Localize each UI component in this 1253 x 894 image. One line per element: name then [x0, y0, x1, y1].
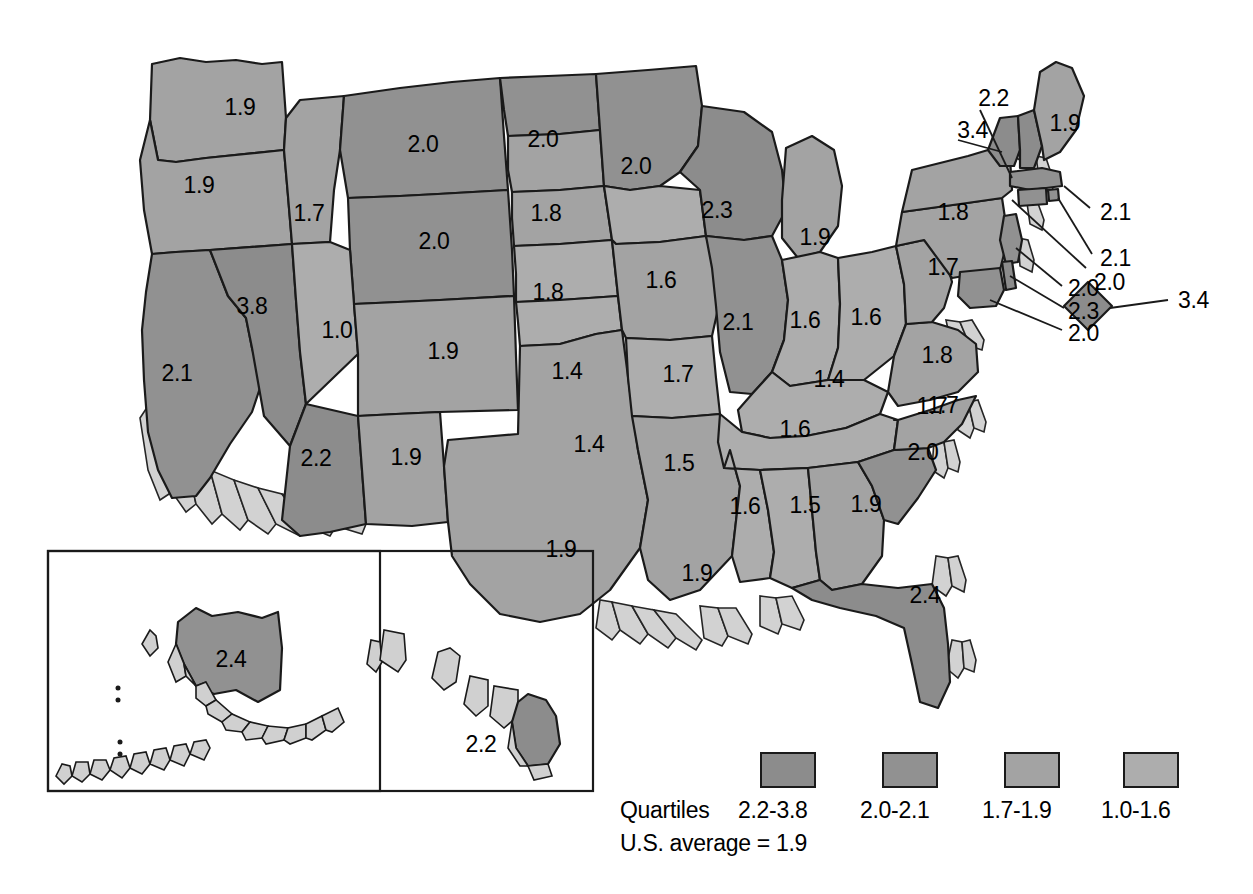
- callout-label-new-hampshire: 2.2: [978, 87, 1009, 110]
- label-wisconsin: 2.3: [702, 199, 733, 222]
- label-mississippi: 1.6: [730, 495, 761, 518]
- label-utah: 1.0: [322, 319, 353, 342]
- label-hawaii: 2.2: [466, 733, 497, 756]
- label-north-carolina: 1.7: [928, 394, 959, 417]
- legend-swatch-2: [1004, 752, 1060, 788]
- label-north-dakota: 2.0: [528, 128, 559, 151]
- label-alabama: 1.5: [790, 494, 821, 517]
- callout-label-massachusetts: 2.1: [1100, 201, 1131, 224]
- callout-label-dc: 3.4: [1178, 289, 1209, 312]
- callout-label-vermont: 3.4: [957, 119, 988, 142]
- label-alaska: 2.4: [216, 648, 247, 671]
- label-louisiana: 1.9: [682, 562, 713, 585]
- label-tennessee: 1.6: [780, 418, 811, 441]
- state-iowa: [604, 186, 706, 244]
- state-new-jersey: [1000, 214, 1022, 264]
- label-iowa: 1.6: [646, 269, 677, 292]
- legend-range-1: 2.0-2.1: [860, 799, 930, 822]
- label-south-carolina: 2.0: [908, 441, 939, 464]
- label-georgia: 1.9: [851, 493, 882, 516]
- legend-swatch-3: [1123, 752, 1179, 788]
- legend-average-label: U.S. average = 1.9: [620, 832, 807, 855]
- legend-quartiles-label: Quartiles: [620, 799, 709, 822]
- label-nebraska: 1.8: [533, 281, 564, 304]
- legend-range-2: 1.7-1.9: [982, 799, 1052, 822]
- label-texas: 1.9: [546, 538, 577, 561]
- label-montana: 2.0: [408, 133, 439, 156]
- label-idaho: 1.7: [294, 202, 325, 225]
- state-rhode-island: [1048, 189, 1059, 201]
- us-choropleth-map: .st{stroke:#1a1a1a;stroke-width:2.2;stro…: [0, 0, 1253, 894]
- label-ohio: 1.6: [851, 306, 882, 329]
- label-wyoming: 2.0: [419, 230, 450, 253]
- state-kansas: [514, 240, 618, 302]
- label-washington: 1.9: [225, 96, 256, 119]
- state-massachusetts: [1010, 168, 1062, 190]
- label-illinois: 2.1: [723, 311, 754, 334]
- callout-label-new-jersey: 2.0: [1068, 277, 1099, 300]
- legend-swatch-0: [760, 752, 816, 788]
- label-missouri: 1.7: [663, 363, 694, 386]
- label-california: 2.1: [162, 362, 193, 385]
- state-washington: [150, 58, 286, 162]
- label-nevada: 3.8: [237, 295, 268, 318]
- state-nebraska: [512, 186, 612, 246]
- label-florida: 2.4: [910, 584, 941, 607]
- label-new-mexico: 1.9: [391, 446, 422, 469]
- label-south-dakota: 1.8: [531, 202, 562, 225]
- callout-label-rhode-island: 2.1: [1100, 247, 1131, 270]
- legend-range-3: 1.0-1.6: [1101, 799, 1171, 822]
- label-kentucky: 1.4: [814, 368, 845, 391]
- label-oklahoma: 1.4: [574, 433, 605, 456]
- legend-range-0: 2.2-3.8: [738, 799, 808, 822]
- alaska-shape: [56, 608, 344, 784]
- label-new-york: 1.8: [938, 201, 969, 224]
- callout-label-maryland: 2.0: [1068, 322, 1099, 345]
- label-kansas: 1.4: [552, 360, 583, 383]
- label-arizona: 2.2: [301, 447, 332, 470]
- label-west-virginia: 1.8: [922, 344, 953, 367]
- label-arkansas: 1.5: [664, 452, 695, 475]
- label-oregon: 1.9: [184, 174, 215, 197]
- state-connecticut: [1018, 188, 1047, 206]
- hawaii-shape: [367, 630, 560, 780]
- label-indiana: 1.6: [790, 309, 821, 332]
- label-minnesota: 2.0: [621, 155, 652, 178]
- map-legend: Quartiles 2.2-3.8 2.0-2.1 1.7-1.9 1.0-1.…: [620, 752, 1220, 862]
- label-colorado: 1.9: [428, 340, 459, 363]
- label-maine: 1.9: [1050, 112, 1081, 135]
- label-pennsylvania: 1.7: [928, 256, 959, 279]
- label-michigan: 1.9: [800, 226, 831, 249]
- legend-swatch-1: [882, 752, 938, 788]
